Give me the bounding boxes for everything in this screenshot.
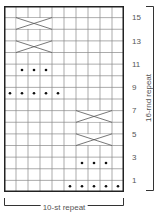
knitting-chart-grid	[4, 6, 124, 192]
vertical-repeat-label: 16-rnd repeat	[144, 72, 153, 124]
purl-dot-symbol	[57, 92, 60, 95]
purl-dot-symbol	[81, 185, 84, 188]
purl-dot-symbol	[21, 92, 24, 95]
row-label-7: 7	[132, 107, 136, 115]
row-label-11: 11	[132, 61, 140, 69]
purl-dot-symbol	[45, 92, 48, 95]
purl-dot-symbol	[33, 92, 36, 95]
purl-dot-symbol	[21, 69, 24, 72]
row-label-3: 3	[132, 154, 136, 162]
purl-dot-symbol	[81, 162, 84, 165]
purl-dot-symbol	[105, 162, 108, 165]
row-label-9: 9	[132, 84, 136, 92]
row-label-15: 15	[132, 14, 141, 22]
row-label-1: 1	[132, 177, 136, 185]
purl-dot-symbol	[69, 185, 72, 188]
row-label-5: 5	[132, 131, 136, 139]
purl-dot-symbol	[33, 69, 36, 72]
row-label-13: 13	[132, 38, 141, 46]
purl-dot-symbol	[93, 162, 96, 165]
purl-dot-symbol	[9, 92, 12, 95]
horizontal-repeat-label: 10-st repeat	[41, 203, 88, 212]
purl-dot-symbol	[45, 69, 48, 72]
purl-dot-symbol	[105, 185, 108, 188]
purl-dot-symbol	[117, 185, 120, 188]
purl-dot-symbol	[93, 185, 96, 188]
